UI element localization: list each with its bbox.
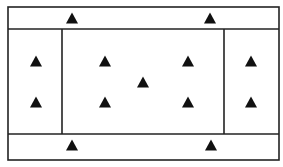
triangle-marker-icon	[182, 97, 194, 108]
triangle-marker-icon	[66, 140, 78, 151]
markers-group	[30, 13, 257, 151]
triangle-marker-icon	[137, 77, 149, 88]
triangle-marker-icon	[99, 56, 111, 67]
triangle-marker-icon	[245, 97, 257, 108]
triangle-marker-icon	[66, 13, 78, 24]
zone-layout-diagram	[0, 0, 283, 167]
triangle-marker-icon	[30, 97, 42, 108]
triangle-marker-icon	[245, 56, 257, 67]
triangle-marker-icon	[205, 140, 217, 151]
triangle-marker-icon	[182, 56, 194, 67]
triangle-marker-icon	[204, 13, 216, 24]
triangle-marker-icon	[30, 56, 42, 67]
triangle-marker-icon	[99, 97, 111, 108]
